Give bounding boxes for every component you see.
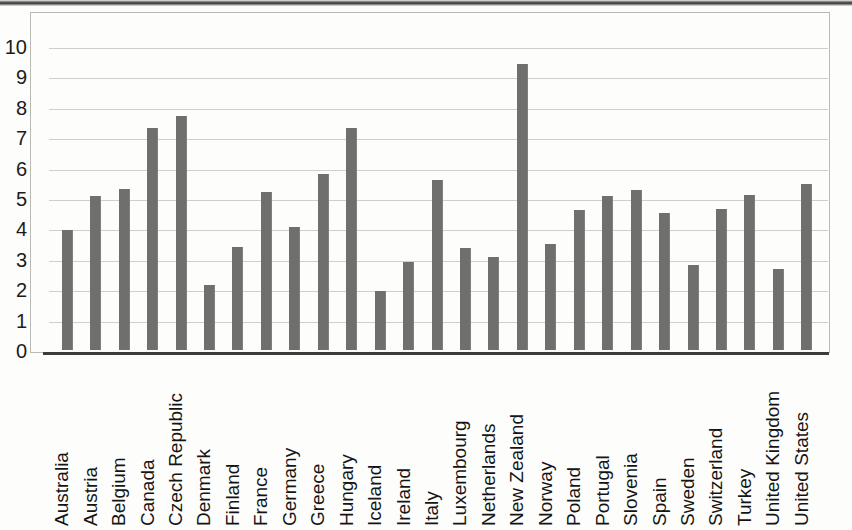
chart-page: 109876543210 AustraliaAustriaBelgiumCana… (0, 0, 852, 530)
bar (488, 257, 499, 350)
bar (517, 64, 528, 350)
bar (801, 184, 812, 350)
bar (232, 247, 243, 350)
x-axis-tick-label: Portugal (593, 455, 612, 526)
x-axis-tick-label: Netherlands (479, 424, 498, 526)
x-axis-tick-label: Sweden (678, 457, 697, 526)
y-axis-tick-label: 8 (3, 98, 27, 118)
bar (460, 248, 471, 350)
y-axis-tick-label: 0 (3, 341, 27, 361)
bar (318, 174, 329, 350)
x-axis-label-slot: Slovenia (625, 356, 645, 526)
x-axis-tick-label: Greece (308, 464, 327, 526)
bar (773, 269, 784, 350)
bar (90, 196, 101, 350)
x-axis-label-slot: United Kingdom (767, 356, 787, 526)
y-axis-tick-label: 4 (3, 219, 27, 239)
x-axis-tick-label: Ireland (394, 468, 413, 526)
x-axis-label-slot: Switzerland (710, 356, 730, 526)
x-axis-tick-label: United Kingdom (763, 391, 782, 526)
bar (744, 195, 755, 350)
x-axis-tick-label: Luxembourg (450, 420, 469, 526)
bar (403, 262, 414, 350)
x-axis-tick-label: New Zealand (507, 414, 526, 526)
x-axis-tick-label: Italy (422, 491, 441, 526)
x-axis-label-slot: Spain (654, 356, 674, 526)
bar (688, 265, 699, 350)
x-axis-tick-label: Denmark (194, 449, 213, 526)
y-axis-tick-label: 1 (3, 311, 27, 331)
x-axis-label-slot: Australia (56, 356, 76, 526)
x-axis-tick-label: Finland (223, 464, 242, 526)
x-axis-label-slot: United States (796, 356, 816, 526)
x-axis-tick-label: Spain (650, 477, 669, 526)
x-axis-label-slot: Hungary (341, 356, 361, 526)
x-axis-tick-label: Australia (52, 452, 71, 526)
x-axis-label-slot: Greece (312, 356, 332, 526)
bar (346, 128, 357, 350)
bar (574, 210, 585, 350)
x-axis-tick-label: Belgium (109, 457, 128, 526)
x-axis-tick-label: Hungary (337, 454, 356, 526)
bar (119, 189, 130, 350)
x-axis-tick-label: Austria (81, 467, 100, 526)
bar (261, 192, 272, 350)
x-axis-tick-label: Slovenia (621, 453, 640, 526)
x-axis-label-slot: Germany (284, 356, 304, 526)
x-axis-label-slot: Netherlands (483, 356, 503, 526)
plot-area (30, 12, 830, 353)
x-axis-tick-label: United States (792, 412, 811, 526)
plot-inner (31, 13, 829, 352)
x-axis-tick-label: Switzerland (706, 428, 725, 526)
x-axis-tick-label: Norway (536, 462, 555, 526)
x-axis-tick-label: Germany (280, 448, 299, 526)
y-axis-tick-label: 9 (3, 67, 27, 87)
scan-artifact-line (0, 0, 852, 6)
y-axis-tick-label: 2 (3, 280, 27, 300)
y-axis-tick-label: 5 (3, 189, 27, 209)
x-axis-label-slot: New Zealand (511, 356, 531, 526)
bar (62, 230, 73, 350)
bar (375, 291, 386, 350)
bar (602, 196, 613, 350)
x-axis-label-slot: Ireland (398, 356, 418, 526)
bar (659, 213, 670, 350)
x-axis-tick-label: France (251, 467, 270, 526)
y-axis-tick-label: 7 (3, 128, 27, 148)
x-axis-label-slot: Belgium (113, 356, 133, 526)
x-axis-label-slot: Turkey (739, 356, 759, 526)
x-axis-label-slot: Austria (85, 356, 105, 526)
x-axis-tick-label: Poland (564, 467, 583, 526)
x-axis-label-slot: Denmark (198, 356, 218, 526)
y-axis-tick-label: 6 (3, 159, 27, 179)
bar (204, 285, 215, 350)
x-axis-tick-label: Canada (138, 459, 157, 526)
x-axis-label-slot: Canada (142, 356, 162, 526)
x-axis-tick-label: Iceland (365, 465, 384, 526)
x-axis-label-slot: Portugal (597, 356, 617, 526)
y-axis-tick-label: 3 (3, 250, 27, 270)
x-axis-label-slot: Norway (540, 356, 560, 526)
x-axis-labels: AustraliaAustriaBelgiumCanadaCzech Repub… (30, 356, 830, 526)
bar (716, 209, 727, 350)
bars (31, 13, 829, 352)
bar (631, 190, 642, 350)
x-axis-label-slot: Luxembourg (454, 356, 474, 526)
x-axis-tick-label: Czech Republic (166, 393, 185, 526)
x-axis-label-slot: Iceland (369, 356, 389, 526)
x-axis-label-slot: Poland (568, 356, 588, 526)
bar (289, 227, 300, 350)
bar (147, 128, 158, 350)
x-axis-label-slot: Finland (227, 356, 247, 526)
bar (432, 180, 443, 350)
x-axis-line (43, 352, 829, 355)
x-axis-label-slot: Czech Republic (170, 356, 190, 526)
x-axis-tick-label: Turkey (735, 469, 754, 526)
y-axis-tick-label: 10 (3, 37, 27, 57)
x-axis-label-slot: Italy (426, 356, 446, 526)
bar (545, 244, 556, 350)
x-axis-label-slot: Sweden (682, 356, 702, 526)
bar (176, 116, 187, 350)
y-axis: 109876543210 (0, 12, 27, 353)
x-axis-label-slot: France (255, 356, 275, 526)
